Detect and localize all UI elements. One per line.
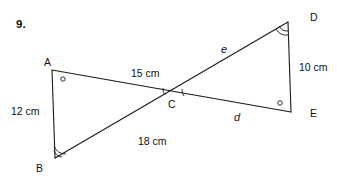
segment-bd <box>55 22 288 158</box>
measure-label-de: 10 cm <box>299 62 328 73</box>
measure-label-ab: 12 cm <box>11 106 40 117</box>
geometry-figure: 9. A <box>0 0 337 190</box>
variable-label-ce: d <box>234 112 240 123</box>
segment-de <box>288 22 291 112</box>
geometry-drawing <box>0 0 337 190</box>
variable-label-cd: e <box>221 44 227 55</box>
vertex-label-c: C <box>168 99 176 110</box>
vertex-label-b: B <box>36 163 43 174</box>
vertex-label-a: A <box>44 57 51 68</box>
measure-label-bc: 18 cm <box>138 136 167 147</box>
segment-ab <box>52 70 55 158</box>
vertex-label-d: D <box>310 12 318 23</box>
angle-mark-e-circle-icon <box>278 101 282 105</box>
angle-mark-a-circle-icon <box>61 77 65 81</box>
measure-label-ac: 15 cm <box>131 68 160 79</box>
vertex-label-e: E <box>310 108 317 119</box>
